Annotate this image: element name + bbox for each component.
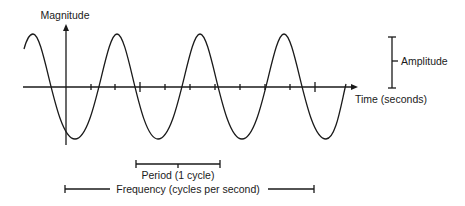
period-label: Period (1 cycle) xyxy=(142,169,215,181)
amplitude-bracket xyxy=(388,37,398,88)
waveform-diagram: Magnitude Time (seconds) Amplitude xyxy=(0,0,465,206)
arrow-right-icon xyxy=(351,84,358,90)
amplitude-label: Amplitude xyxy=(401,55,448,67)
arrow-up-icon xyxy=(63,24,69,31)
period-bracket xyxy=(136,160,220,168)
frequency-label: Frequency (cycles per second) xyxy=(116,183,260,195)
x-axis xyxy=(23,82,358,92)
time-label: Time (seconds) xyxy=(355,93,427,105)
magnitude-label: Magnitude xyxy=(40,9,89,21)
